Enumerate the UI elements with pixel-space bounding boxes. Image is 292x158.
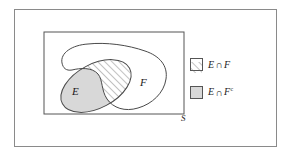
legend-label-e-minus-f: E∩Fc <box>208 86 233 97</box>
venn-diagram-figure: E F S E∩F E∩Fc <box>0 0 292 158</box>
set-e-label: E <box>72 85 79 97</box>
legend-label-intersection: E∩F <box>208 59 230 70</box>
legend: E∩F E∩Fc <box>190 54 270 110</box>
legend-item-e-minus-f: E∩Fc <box>190 82 270 102</box>
legend-operator: ∩ <box>214 87 224 98</box>
sample-space-label: S <box>181 113 186 123</box>
legend-item-intersection: E∩F <box>190 54 270 74</box>
legend-operator: ∩ <box>214 59 224 70</box>
gray-swatch-icon <box>190 86 203 99</box>
set-f-label: F <box>140 76 147 88</box>
hatched-swatch-icon <box>190 58 203 71</box>
legend-superscript: c <box>230 86 233 92</box>
legend-set-b: F <box>224 59 230 70</box>
